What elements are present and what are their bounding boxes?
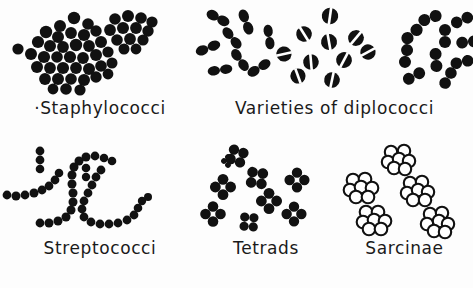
caption-staphylococci: ·Staphylococci: [0, 98, 200, 118]
bacterial-morphology-figure: ·Staphylococci: [0, 0, 473, 288]
staphylococci-illustration: [0, 2, 200, 97]
caption-diplococci: Varieties of diplococci: [196, 98, 473, 118]
streptococci-illustration: [0, 144, 200, 236]
panel-streptococci: Streptococci: [0, 144, 200, 276]
panel-staphylococci: ·Staphylococci: [0, 2, 200, 132]
caption-streptococci: Streptococci: [0, 238, 200, 258]
caption-text-staphylococci: Staphylococci: [40, 98, 166, 118]
panel-diplococci: Varieties of diplococci: [196, 2, 473, 132]
caption-sarcinae: Sarcinae: [336, 238, 473, 258]
sarcinae-illustration: [336, 144, 473, 236]
caption-tetrads: Tetrads: [196, 238, 336, 258]
diplococci-group-round: [398, 8, 473, 91]
panel-sarcinae: Sarcinae: [336, 144, 473, 276]
diplococci-illustration: [196, 2, 473, 97]
diplococci-group-split: [275, 6, 379, 89]
panel-tetrads: Tetrads: [196, 144, 336, 276]
diplococci-group-lancet: [194, 8, 275, 79]
tetrads-illustration: [196, 144, 336, 236]
